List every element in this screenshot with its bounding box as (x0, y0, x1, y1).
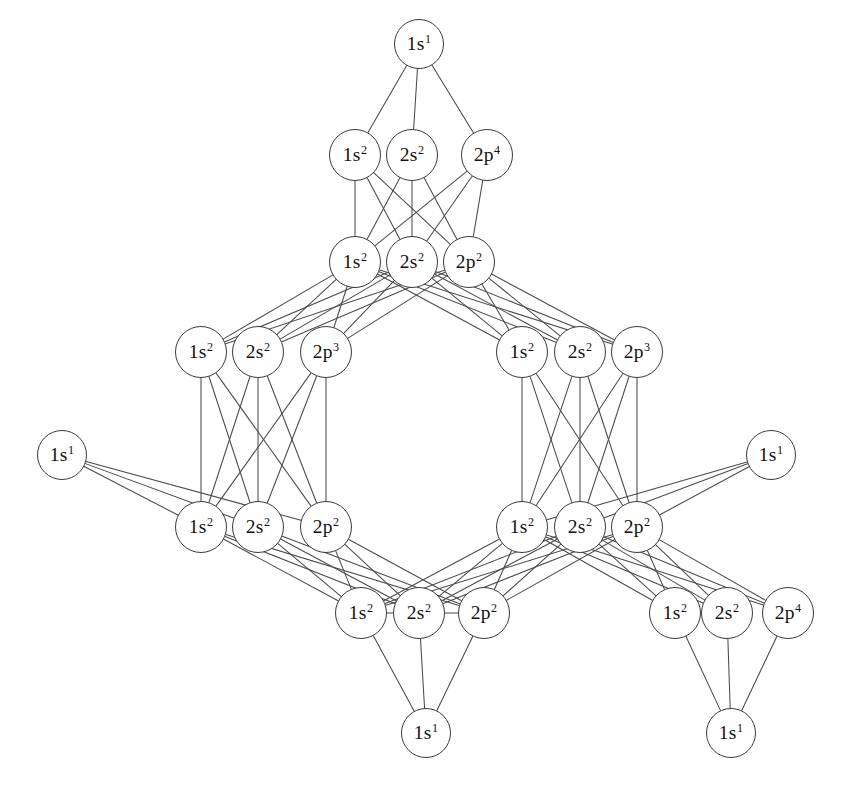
node-label: 2s2 (407, 603, 431, 623)
hydrogen-bond-edge (437, 636, 473, 710)
node-label: 2p2 (313, 517, 340, 537)
diagram-canvas: 1s22s22p21s22s22p41s22s22p31s22s22p31s22… (0, 0, 843, 789)
bond-edge (424, 178, 457, 239)
orbital-node-1s2[interactable]: 1s2 (175, 326, 227, 378)
orbital-node-2s2[interactable]: 2s2 (386, 236, 438, 288)
node-label: 1s2 (189, 517, 213, 537)
orbital-node-2p2[interactable]: 2p2 (458, 587, 510, 639)
node-label: 2s2 (246, 342, 270, 362)
node-label: 2s2 (715, 603, 739, 623)
node-label: 1s1 (50, 445, 74, 465)
node-label: 2s2 (400, 145, 424, 165)
hydrogen-right[interactable]: 1s1 (746, 430, 796, 480)
node-label: 2p3 (624, 342, 651, 362)
hydrogen-bottom-center[interactable]: 1s1 (401, 708, 451, 758)
hydrogen-bond-edge (686, 637, 720, 711)
hydrogen-bottom-right[interactable]: 1s1 (706, 708, 756, 758)
node-label: 1s1 (759, 445, 783, 465)
node-label: 2s2 (568, 342, 592, 362)
orbital-node-1s2[interactable]: 1s2 (335, 587, 387, 639)
hydrogen-bond-edge (728, 639, 730, 708)
node-label: 1s2 (510, 342, 534, 362)
node-label: 2p2 (456, 252, 483, 272)
node-label: 2p2 (471, 603, 498, 623)
orbital-node-2p3[interactable]: 2p3 (611, 326, 663, 378)
orbital-node-2p4[interactable]: 2p4 (461, 129, 513, 181)
bond-edge (375, 171, 467, 245)
orbital-node-2s2[interactable]: 2s2 (232, 501, 284, 553)
orbital-node-2s2[interactable]: 2s2 (701, 587, 753, 639)
hydrogen-bond-edge (432, 65, 473, 133)
orbital-node-2p2[interactable]: 2p2 (611, 501, 663, 553)
node-label: 2s2 (246, 517, 270, 537)
hydrogen-bond-edge (373, 636, 414, 711)
orbital-node-1s2[interactable]: 1s2 (329, 129, 381, 181)
node-label: 1s2 (663, 603, 687, 623)
orbital-node-1s2[interactable]: 1s2 (496, 326, 548, 378)
hydrogen-bond-edge (742, 636, 777, 710)
node-label: 2p4 (775, 603, 802, 623)
node-label: 1s1 (719, 723, 743, 743)
node-label: 1s2 (343, 252, 367, 272)
orbital-node-2p2[interactable]: 2p2 (300, 501, 352, 553)
orbital-node-1s2[interactable]: 1s2 (496, 501, 548, 553)
node-label: 2s2 (568, 517, 592, 537)
orbital-node-2p4[interactable]: 2p4 (762, 587, 814, 639)
node-label: 1s1 (414, 723, 438, 743)
node-label: 1s1 (407, 34, 431, 54)
orbital-node-2s2[interactable]: 2s2 (554, 501, 606, 553)
bond-edge (495, 551, 512, 589)
orbital-node-2p3[interactable]: 2p3 (300, 326, 352, 378)
orbital-node-2p2[interactable]: 2p2 (443, 236, 495, 288)
hydrogen-left[interactable]: 1s1 (37, 430, 87, 480)
node-label: 2s2 (400, 252, 424, 272)
orbital-node-1s2[interactable]: 1s2 (329, 236, 381, 288)
orbital-node-2s2[interactable]: 2s2 (232, 326, 284, 378)
hydrogen-bond-edge (368, 66, 407, 133)
node-label: 2p3 (313, 342, 340, 362)
orbital-node-1s2[interactable]: 1s2 (649, 587, 701, 639)
node-label: 1s2 (349, 603, 373, 623)
hydrogen-bond-edge (421, 639, 425, 708)
node-label: 2p2 (624, 517, 651, 537)
node-label: 2p4 (474, 145, 501, 165)
node-label: 1s2 (343, 145, 367, 165)
orbital-node-2s2[interactable]: 2s2 (386, 129, 438, 181)
bond-edge (503, 544, 560, 595)
bond-edge (599, 544, 655, 595)
node-label: 1s2 (510, 517, 534, 537)
bond-edge (473, 181, 482, 237)
orbital-node-2s2[interactable]: 2s2 (393, 587, 445, 639)
edge-layer (0, 0, 843, 789)
orbital-node-1s2[interactable]: 1s2 (175, 501, 227, 553)
node-label: 1s2 (189, 342, 213, 362)
hydrogen-bond-edge (414, 69, 418, 129)
orbital-node-2s2[interactable]: 2s2 (554, 326, 606, 378)
hydrogen-apex[interactable]: 1s1 (394, 19, 444, 69)
